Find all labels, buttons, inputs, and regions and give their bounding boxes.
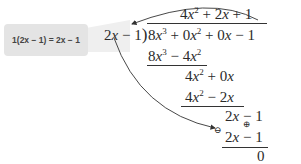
minus-circle-icon: ⊖ xyxy=(214,126,222,135)
step-rule-2 xyxy=(181,106,244,107)
division-bar xyxy=(147,23,267,24)
step-remainder-1: 4x2 + 0x xyxy=(185,68,234,84)
divisor: 2x − 1) xyxy=(104,26,147,43)
final-remainder: 0 xyxy=(257,149,265,164)
step-subtract-1: 8x3 − 4x2 xyxy=(148,48,201,64)
dividend: 8x3 + 0x2 + 0x − 1 xyxy=(148,27,255,43)
step-subtract-2: 4x2 − 2x xyxy=(185,89,234,105)
plus-circle-icon: ⊕ xyxy=(243,120,251,129)
step-rule-1 xyxy=(147,65,207,66)
quotient: 4x2 + 2x + 1 xyxy=(180,6,252,22)
step-subtract-3: ⊖ 2x ⊕− 1 xyxy=(225,130,263,145)
